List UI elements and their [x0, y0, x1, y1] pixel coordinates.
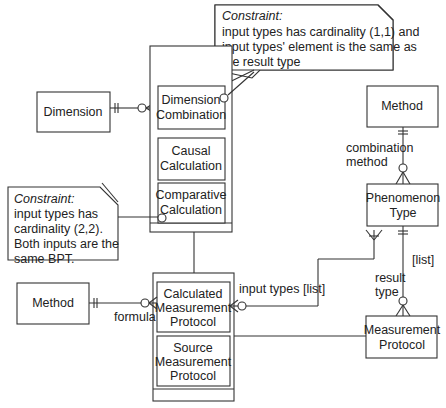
relation-label-input-types: input types [list]	[239, 282, 325, 296]
svg-text:Measurement: Measurement	[155, 301, 232, 315]
entity-phenomenon-type[interactable]: Phenomenon Type	[366, 184, 440, 226]
relation-result-type: [list] result type	[375, 226, 434, 316]
svg-text:Protocol: Protocol	[379, 338, 425, 352]
relation-label-list: [list]	[412, 253, 434, 267]
note-top-title: Constraint:	[222, 9, 282, 23]
subtype-causal-calculation[interactable]: Causal Calculation	[158, 138, 225, 180]
svg-text:Phenomenon: Phenomenon	[366, 191, 440, 205]
entity-method-right[interactable]: Method	[367, 86, 438, 127]
svg-text:Calculation: Calculation	[160, 159, 222, 173]
note-top-line: the result type	[222, 55, 301, 69]
supertype-protocol: Calculated Measurement Protocol Source M…	[153, 273, 234, 401]
entity-dimension[interactable]: Dimension	[37, 92, 110, 132]
relation-label-method: method	[346, 155, 388, 169]
note-left-line: Both inputs are the	[14, 237, 119, 251]
subtype-comparative-calculation[interactable]: Comparative Calculation	[156, 183, 227, 223]
entity-label: Dimension	[43, 105, 102, 119]
svg-text:Causal: Causal	[172, 144, 211, 158]
note-left-title: Constraint:	[14, 192, 74, 206]
relation-label-combination: combination	[346, 141, 413, 155]
calculation-subtypes: Dimension Combination Causal Calculation…	[150, 46, 232, 232]
note-left-line: input types has	[14, 207, 98, 221]
note-top-line: input types has cardinality (1,1) and	[222, 25, 419, 39]
entity-method-left[interactable]: Method	[17, 283, 89, 324]
relation-formula: formula	[89, 297, 157, 324]
er-diagram: Constraint: input types has cardinality …	[0, 0, 446, 408]
relation-input-types: input types [list]	[230, 230, 382, 312]
entity-label: Method	[32, 296, 74, 310]
svg-text:Protocol: Protocol	[170, 315, 216, 329]
svg-text:Dimension: Dimension	[161, 93, 220, 107]
svg-text:Source: Source	[173, 341, 213, 355]
svg-text:Type: Type	[389, 206, 416, 220]
relation-combination-method: combination method	[346, 127, 413, 184]
relation-label-result: result	[375, 271, 406, 285]
note-left-line: cardinality (2,2).	[14, 222, 103, 236]
constraint-note-left: Constraint: input types has cardinality …	[8, 183, 158, 266]
subtype-source-measurement-protocol[interactable]: Source Measurement Protocol	[155, 336, 232, 386]
note-left-line: same BPT.	[14, 252, 74, 266]
subtype-calculated-measurement-protocol[interactable]: Calculated Measurement Protocol	[155, 282, 232, 332]
entity-measurement-protocol[interactable]: Measurement Protocol	[364, 316, 441, 358]
svg-text:Protocol: Protocol	[170, 369, 216, 383]
relation-label-formula: formula	[114, 310, 156, 324]
svg-text:Comparative: Comparative	[156, 188, 227, 202]
note-top-line: input types' element is the same as	[222, 40, 417, 54]
relation-label-type: type	[375, 285, 399, 299]
svg-text:Calculated: Calculated	[163, 287, 222, 301]
svg-text:Measurement: Measurement	[364, 323, 441, 337]
svg-text:Combination: Combination	[156, 108, 226, 122]
svg-text:Calculation: Calculation	[160, 203, 222, 217]
svg-text:Measurement: Measurement	[155, 355, 232, 369]
constraint-note-top: Constraint: input types has cardinality …	[203, 5, 419, 95]
entity-label: Method	[381, 99, 423, 113]
subtype-dimension-combination[interactable]: Dimension Combination	[156, 86, 228, 129]
